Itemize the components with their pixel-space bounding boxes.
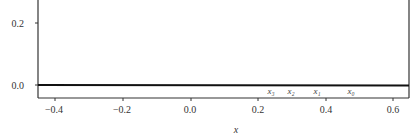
x-tick-label: 0.6 bbox=[387, 104, 400, 115]
y-tick-label: 0.0 bbox=[12, 80, 25, 91]
x-tick-label: −0.2 bbox=[113, 104, 131, 115]
point-label-x2: x₂ bbox=[286, 86, 294, 96]
point-label-x3: x₃ bbox=[266, 86, 274, 96]
x-tick-label: 0.2 bbox=[252, 104, 265, 115]
x-axis-label: x bbox=[233, 124, 239, 135]
y-tick-label: 0.2 bbox=[12, 18, 25, 29]
chart-plot: 0.2 0.0 −0.4 −0.2 0.0 0.2 0.4 0.6 x₃ x₂ … bbox=[0, 0, 411, 140]
point-label-x1: x₁ bbox=[312, 86, 320, 96]
x-tick-label: 0.4 bbox=[320, 104, 333, 115]
x-tick-label: −0.4 bbox=[45, 104, 63, 115]
point-label-x0: x₀ bbox=[346, 86, 354, 96]
x-tick-label: 0.0 bbox=[184, 104, 197, 115]
